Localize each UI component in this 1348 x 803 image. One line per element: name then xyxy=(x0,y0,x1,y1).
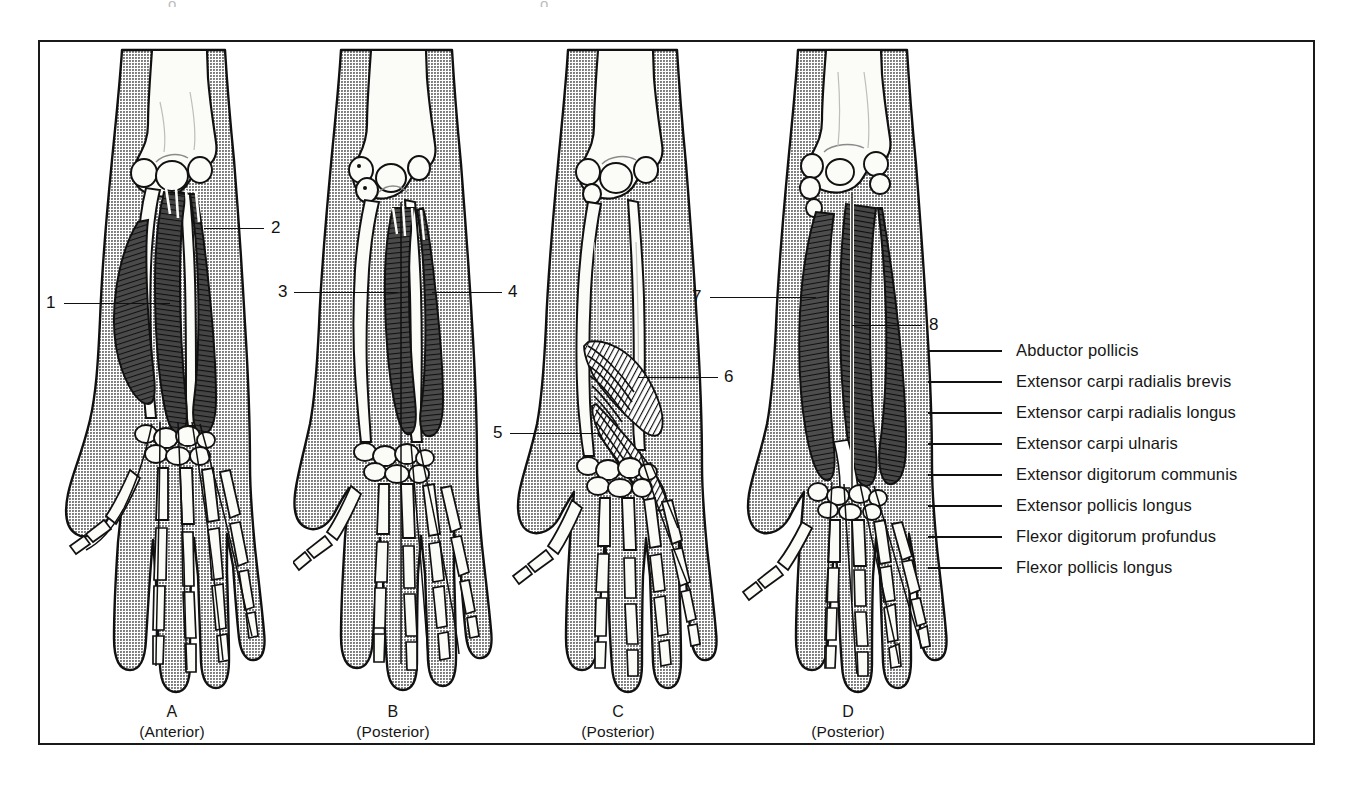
panel-a-view: (Anterior) xyxy=(82,722,262,742)
legend-leader-line xyxy=(928,567,1002,569)
legend-item: Extensor carpi radialis longus xyxy=(928,397,1318,428)
figure-frame: A (Anterior) xyxy=(38,40,1315,745)
callout-1-leader xyxy=(64,303,170,304)
callout-5-number: 5 xyxy=(493,424,502,441)
legend-item: Extensor digitorum communis xyxy=(928,459,1318,490)
legend-label: Extensor carpi ulnaris xyxy=(1016,434,1178,453)
panel-a-illustration xyxy=(60,42,290,702)
panel-c: C (Posterior) xyxy=(510,42,740,747)
legend-item: Flexor pollicis longus xyxy=(928,552,1318,583)
panel-b-illustration xyxy=(293,42,508,702)
legend-leader-line xyxy=(928,350,1002,352)
callout-5-leader xyxy=(510,433,600,434)
callout-2-number: 2 xyxy=(271,219,280,236)
legend-label: Extensor carpi radialis brevis xyxy=(1016,372,1231,391)
scan-artifact-top-left: o xyxy=(168,0,176,7)
panel-c-view: (Posterior) xyxy=(528,722,708,742)
panel-d-letter: D xyxy=(758,702,938,722)
panel-c-caption: C (Posterior) xyxy=(528,702,708,742)
panel-c-letter: C xyxy=(528,702,708,722)
panel-a-letter: A xyxy=(82,702,262,722)
panel-b-view: (Posterior) xyxy=(303,722,483,742)
figure-stage: o o xyxy=(0,0,1348,803)
legend: Abductor pollicis Extensor carpi radiali… xyxy=(928,335,1318,583)
legend-leader-line xyxy=(928,474,1002,476)
panel-c-illustration xyxy=(510,42,740,702)
callout-4-leader xyxy=(432,292,502,293)
legend-leader-line xyxy=(928,412,1002,414)
legend-label: Flexor pollicis longus xyxy=(1016,558,1172,577)
legend-label: Extensor pollicis longus xyxy=(1016,496,1192,515)
legend-item: Abductor pollicis xyxy=(928,335,1318,366)
legend-item: Extensor carpi ulnaris xyxy=(928,428,1318,459)
panel-a-caption: A (Anterior) xyxy=(82,702,262,742)
callout-3-leader xyxy=(294,292,398,293)
callout-2-leader xyxy=(204,228,264,229)
callout-7-number: 7 xyxy=(692,288,701,305)
panel-a: A (Anterior) xyxy=(60,42,290,747)
scan-artifact-top-right: o xyxy=(540,0,548,7)
legend-label: Extensor carpi radialis longus xyxy=(1016,403,1236,422)
legend-label: Flexor digitorum profundus xyxy=(1016,527,1216,546)
legend-item: Flexor digitorum profundus xyxy=(928,521,1318,552)
callout-4-number: 4 xyxy=(508,283,517,300)
legend-leader-line xyxy=(928,381,1002,383)
callout-7-leader xyxy=(710,297,816,298)
legend-item: Extensor carpi radialis brevis xyxy=(928,366,1318,397)
callout-6-number: 6 xyxy=(724,368,733,385)
callout-3-number: 3 xyxy=(278,283,287,300)
panel-b: B (Posterior) xyxy=(293,42,508,747)
legend-leader-line xyxy=(928,443,1002,445)
legend-label: Extensor digitorum communis xyxy=(1016,465,1237,484)
legend-leader-line xyxy=(928,536,1002,538)
panel-d-view: (Posterior) xyxy=(758,722,938,742)
panel-b-letter: B xyxy=(303,702,483,722)
legend-item: Extensor pollicis longus xyxy=(928,490,1318,521)
panel-b-caption: B (Posterior) xyxy=(303,702,483,742)
callout-8-leader xyxy=(852,325,922,326)
callout-6-leader xyxy=(638,377,718,378)
panel-d-caption: D (Posterior) xyxy=(758,702,938,742)
callout-8-number: 8 xyxy=(929,316,938,333)
legend-label: Abductor pollicis xyxy=(1016,341,1139,360)
legend-leader-line xyxy=(928,505,1002,507)
callout-1-number: 1 xyxy=(46,294,55,311)
